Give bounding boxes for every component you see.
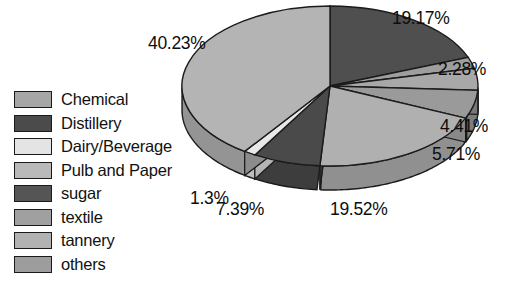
label-7-39: 7.39% [216, 199, 264, 220]
legend-swatch-chemical [14, 91, 52, 108]
legend-swatch-distillery [14, 115, 52, 132]
legend-label-chemical: Chemical [61, 91, 128, 108]
legend-swatch-textile [14, 209, 52, 226]
chart-legend: Chemical Distillery Dairy/Beverage Pulb … [14, 88, 189, 276]
pie-chart-figure: Chemical Distillery Dairy/Beverage Pulb … [0, 0, 523, 284]
legend-item-pulb-and-paper: Pulb and Paper [14, 159, 189, 183]
legend-label-sugar: sugar [61, 185, 101, 202]
legend-item-tannery: tannery [14, 229, 189, 253]
legend-item-others: others [14, 253, 189, 277]
label-19-17: 19.17% [392, 8, 450, 29]
legend-label-tannery: tannery [61, 232, 115, 249]
legend-item-dairy-beverage: Dairy/Beverage [14, 135, 189, 159]
legend-item-sugar: sugar [14, 182, 189, 206]
legend-swatch-pulb-and-paper [14, 162, 52, 179]
legend-swatch-tannery [14, 232, 52, 249]
legend-label-dairy-beverage: Dairy/Beverage [61, 138, 172, 155]
label-19-52: 19.52% [330, 199, 388, 220]
legend-swatch-others [14, 256, 52, 273]
legend-label-distillery: Distillery [61, 115, 121, 132]
legend-item-chemical: Chemical [14, 88, 189, 112]
label-5-71: 5.71% [432, 144, 480, 165]
legend-label-pulb-and-paper: Pulb and Paper [61, 162, 172, 179]
legend-swatch-dairy-beverage [14, 138, 52, 155]
legend-label-textile: textile [61, 209, 103, 226]
label-40-23: 40.23% [148, 33, 206, 54]
legend-item-textile: textile [14, 206, 189, 230]
legend-swatch-sugar [14, 185, 52, 202]
label-2-28: 2.28% [438, 59, 486, 80]
legend-label-others: others [61, 256, 106, 273]
pie-top-faces [182, 6, 478, 166]
legend-item-distillery: Distillery [14, 112, 189, 136]
label-4-41: 4.41% [440, 116, 488, 137]
